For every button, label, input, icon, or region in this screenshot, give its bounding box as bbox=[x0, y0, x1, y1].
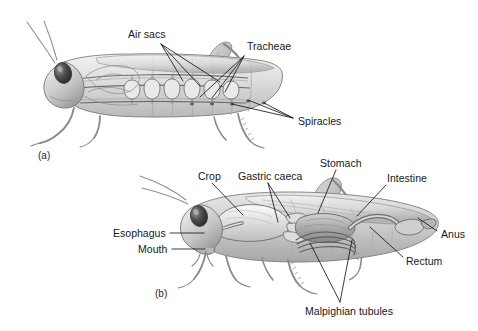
label-intestine: Intestine bbox=[387, 172, 427, 184]
label-air-sacs: Air sacs bbox=[128, 28, 166, 40]
label-crop: Crop bbox=[198, 170, 221, 182]
label-malpighian-tubules: Malpighian tubules bbox=[305, 305, 393, 317]
panel-caption-a: (a) bbox=[38, 150, 50, 161]
label-rectum: Rectum bbox=[406, 255, 442, 267]
anatomy-figure: Air sacsTracheaeSpiraclesCropGastric cae… bbox=[0, 0, 478, 331]
panel-caption-b: (b) bbox=[155, 288, 167, 299]
label-stomach: Stomach bbox=[320, 157, 362, 169]
label-gastric-caeca: Gastric caeca bbox=[238, 170, 302, 182]
label-mouth: Mouth bbox=[138, 243, 167, 255]
stomach-organ bbox=[295, 214, 355, 243]
antennae-b bbox=[140, 176, 188, 204]
label-spiracles: Spiracles bbox=[298, 115, 341, 127]
label-tracheae: Tracheae bbox=[247, 40, 291, 52]
grasshopper-illustration bbox=[0, 0, 478, 331]
panel-a-artwork bbox=[27, 21, 283, 148]
leader-spiracles-2 bbox=[264, 103, 293, 118]
label-esophagus: Esophagus bbox=[113, 227, 166, 239]
antennae-a bbox=[27, 21, 57, 63]
label-anus: Anus bbox=[441, 228, 465, 240]
panel-b-artwork bbox=[140, 176, 438, 294]
